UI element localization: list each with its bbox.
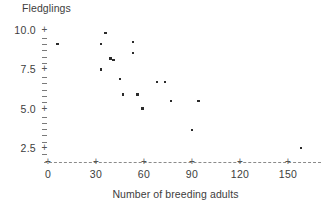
y-tick-label: 10.0 [2,24,36,36]
x-tick-mark: + [189,158,196,166]
data-point [136,93,138,95]
y-minor-tick-mark [42,38,47,39]
y-minor-tick-mark [42,96,47,97]
data-point [109,57,111,59]
y-minor-tick-mark [42,63,47,64]
y-tick-mark: + [41,65,48,72]
y-tick-label: 2.5 [2,142,36,154]
data-point [122,93,124,95]
y-minor-tick-mark [42,142,47,143]
data-point [132,52,134,54]
data-point [164,81,166,83]
x-tick-label: 60 [124,168,164,180]
data-point [170,100,172,102]
x-axis-title: Number of breeding adults [84,188,238,200]
x-tick-mark: + [237,158,244,166]
x-tick-label: 30 [76,168,116,180]
data-point [56,43,58,45]
x-tick-label: 120 [220,168,260,180]
x-tick-mark: + [285,158,292,166]
y-tick-mark: + [41,105,48,112]
y-axis-title: Fledglings [22,2,71,14]
x-tick-mark: + [141,158,148,166]
x-tick-label: 0 [28,168,68,180]
y-minor-tick-mark [42,135,47,136]
data-point [197,100,199,102]
x-axis-line: ++++++ [44,161,321,164]
y-minor-tick-mark [42,57,47,58]
x-axis-title-row: Number of breeding adults [0,188,323,200]
scatter-chart: Fledglings 2.5+5.0+7.5+10.0+ ++++++ 0306… [0,0,323,207]
x-tick-label: 150 [268,168,308,180]
y-minor-tick-mark [42,83,47,84]
y-tick-label: 5.0 [2,103,36,115]
y-minor-tick-mark [42,129,47,130]
y-minor-tick-mark [42,102,47,103]
y-tick-label: 7.5 [2,63,36,75]
data-point [104,32,106,34]
data-point [112,59,114,61]
y-minor-tick-mark [42,123,47,124]
y-minor-tick-mark [42,117,47,118]
y-minor-tick-mark [42,50,47,51]
data-point [100,68,102,70]
data-point [100,43,102,45]
data-point [119,78,121,80]
data-point [156,81,158,83]
y-minor-tick-mark [42,44,47,45]
data-point [132,41,134,43]
y-minor-tick-mark [42,90,47,91]
x-tick-mark: + [93,158,100,166]
x-tick-mark: + [45,158,52,166]
x-axis-dashed-rule [44,162,321,163]
data-point [300,147,302,149]
y-tick-mark: + [41,26,48,33]
x-tick-label: 90 [172,168,212,180]
y-tick-mark: + [41,144,48,151]
y-minor-tick-mark [42,77,47,78]
data-point [141,107,143,109]
data-point [191,129,193,131]
